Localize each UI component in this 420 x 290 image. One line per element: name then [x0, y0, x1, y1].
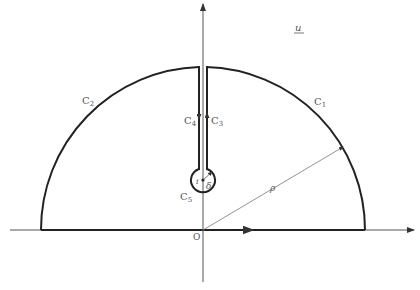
- plane-label: u: [295, 22, 301, 33]
- label-c5: C5: [180, 191, 192, 204]
- label-origin: O: [193, 232, 200, 242]
- label-c4: C4: [184, 115, 197, 128]
- label-rho: ρ: [269, 183, 276, 193]
- arc-c2: [41, 67, 199, 230]
- label-i: i: [196, 177, 199, 186]
- delta-radius: [203, 172, 212, 180]
- contour-diagram: u C1 C2 C3 C4 C5 i δ ρ O: [0, 0, 420, 290]
- label-delta: δ: [206, 181, 211, 191]
- label-c2: C2: [82, 95, 94, 108]
- label-c1: C1: [314, 96, 326, 109]
- label-c3: C3: [211, 115, 223, 128]
